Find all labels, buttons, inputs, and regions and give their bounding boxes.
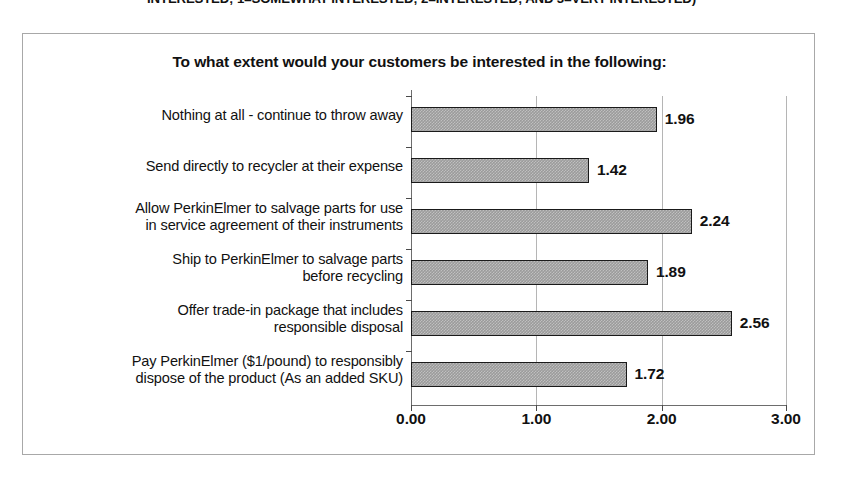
y-tick bbox=[406, 147, 412, 148]
bar bbox=[411, 107, 657, 132]
x-tick-label-2: 2.00 bbox=[627, 410, 697, 428]
bar-value-label: 2.56 bbox=[740, 314, 770, 332]
scanned-page-header: INTERESTED; 1=SOMEWHAT INTERESTED; 2=INT… bbox=[0, 0, 843, 14]
x-tick-label-3: 3.00 bbox=[751, 410, 821, 428]
y-axis-line bbox=[411, 90, 412, 406]
category-label: Offer trade-in package that includes res… bbox=[177, 302, 403, 336]
bar-value-label: 1.72 bbox=[635, 365, 665, 383]
x-axis-tick-labels: 0.00 1.00 2.00 3.00 bbox=[411, 410, 787, 434]
gridline-3 bbox=[786, 96, 787, 406]
category-label: Pay PerkinElmer ($1/pound) to responsibl… bbox=[132, 353, 403, 387]
bar bbox=[411, 362, 627, 387]
y-tick bbox=[406, 249, 412, 250]
category-label: Ship to PerkinElmer to salvage parts bef… bbox=[172, 251, 403, 285]
gridline-1 bbox=[536, 96, 537, 406]
bar-value-label: 1.89 bbox=[656, 263, 686, 281]
bar bbox=[411, 158, 589, 183]
bar-value-label: 2.24 bbox=[700, 212, 730, 230]
y-tick bbox=[406, 351, 412, 352]
bar bbox=[411, 311, 732, 336]
bar-value-label: 1.42 bbox=[597, 161, 627, 179]
gridline-2 bbox=[662, 96, 663, 406]
bar bbox=[411, 260, 648, 285]
plot-area: 1.96 1.42 2.24 1.89 2.56 1.72 bbox=[411, 96, 787, 406]
bar-value-label: 1.96 bbox=[665, 110, 695, 128]
category-label: Allow PerkinElmer to salvage parts for u… bbox=[135, 200, 403, 234]
page-header-text: INTERESTED; 1=SOMEWHAT INTERESTED; 2=INT… bbox=[0, 0, 843, 6]
x-axis-line bbox=[411, 405, 787, 406]
x-tick-label-0: 0.00 bbox=[376, 410, 446, 428]
x-tick-label-1: 1.00 bbox=[501, 410, 571, 428]
y-tick bbox=[406, 96, 412, 97]
category-axis-labels: Nothing at all - continue to throw away … bbox=[31, 96, 403, 406]
y-tick bbox=[406, 198, 412, 199]
category-label: Nothing at all - continue to throw away bbox=[161, 107, 403, 124]
y-tick bbox=[406, 300, 412, 301]
chart-frame: To what extent would your customers be i… bbox=[22, 33, 815, 455]
bar bbox=[411, 209, 692, 234]
category-label: Send directly to recycler at their expen… bbox=[146, 158, 403, 175]
chart-title: To what extent would your customers be i… bbox=[23, 53, 816, 71]
